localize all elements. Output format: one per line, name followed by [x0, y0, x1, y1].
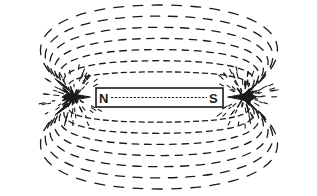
iron-filing — [98, 109, 101, 111]
iron-filing — [263, 86, 267, 88]
iron-filing — [247, 72, 248, 76]
iron-filing — [229, 107, 231, 109]
iron-filing — [55, 87, 57, 88]
iron-filing — [94, 84, 98, 86]
iron-filing — [238, 105, 239, 107]
iron-filing — [241, 89, 242, 91]
iron-filing — [54, 95, 59, 96]
pole-core — [62, 93, 90, 101]
field-line — [50, 27, 268, 97]
iron-filing — [94, 79, 97, 81]
iron-filing — [230, 69, 232, 73]
iron-filing — [58, 92, 63, 94]
iron-filing — [87, 122, 89, 126]
iron-filing — [269, 84, 273, 86]
iron-filing — [233, 104, 236, 107]
north-pole-label: N — [99, 91, 108, 106]
iron-filing — [219, 75, 223, 79]
field-line — [40, 97, 277, 189]
iron-filing — [255, 103, 259, 106]
iron-filing — [270, 88, 275, 89]
iron-filing — [235, 110, 237, 113]
iron-filing — [229, 104, 232, 106]
iron-filing — [264, 103, 268, 104]
iron-filing — [56, 107, 59, 110]
iron-filing — [90, 110, 93, 112]
iron-filing — [58, 104, 60, 105]
south-pole-label: S — [209, 91, 218, 106]
iron-filing — [217, 113, 221, 116]
iron-filing — [223, 113, 226, 116]
iron-filing — [220, 84, 224, 86]
iron-filing — [258, 89, 262, 91]
iron-filing — [48, 103, 51, 104]
iron-filing — [64, 121, 66, 126]
iron-filing — [227, 85, 230, 87]
iron-filing — [80, 101, 83, 103]
bar-magnet-field-diagram: N S — [0, 0, 317, 196]
iron-filing — [228, 122, 230, 125]
iron-filing — [236, 67, 237, 72]
iron-filing — [54, 90, 57, 91]
iron-filing — [78, 65, 79, 70]
iron-filing — [82, 87, 84, 90]
iron-filing — [65, 73, 66, 76]
iron-filing — [238, 89, 240, 91]
iron-filing — [59, 89, 62, 91]
iron-filing — [82, 107, 85, 110]
iron-filing — [83, 69, 84, 72]
field-line — [40, 5, 277, 97]
iron-filing — [238, 122, 239, 125]
iron-filing — [86, 82, 88, 84]
field-line — [45, 16, 273, 97]
iron-filing — [52, 101, 55, 102]
iron-filing — [232, 87, 235, 90]
bar-magnet: N S — [96, 88, 223, 107]
field-line — [45, 97, 273, 178]
iron-filing — [242, 103, 243, 107]
iron-filing — [259, 102, 262, 103]
iron-filing — [63, 100, 66, 101]
iron-filing — [255, 100, 258, 101]
iron-filing — [46, 113, 48, 114]
iron-filing — [237, 72, 238, 77]
iron-filing — [43, 94, 49, 95]
iron-filing — [70, 70, 71, 74]
pole-core — [228, 93, 256, 101]
iron-filing — [240, 100, 242, 103]
